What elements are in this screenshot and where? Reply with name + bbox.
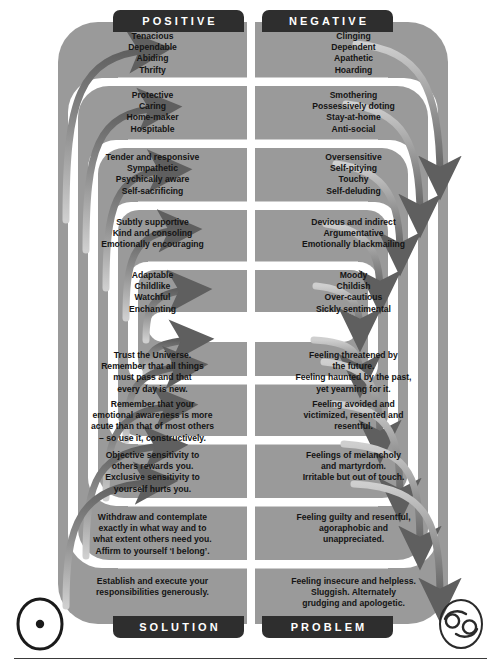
row-1: Tenacious Dependable Abiding Thrifty Cli… (58, 31, 448, 76)
row-2-negative: Smothering Possessively doting Stay-at-h… (253, 90, 448, 135)
row-3-positive: Tender and responsive Sympathetic Psychi… (58, 152, 253, 197)
row-10-negative: Feeling guilty and resentful, agoraphobi… (253, 512, 448, 557)
row-11-negative: Feeling insecure and helpless. Sluggish.… (253, 576, 448, 610)
row-7-positive: Trust the Universe. Remember that all th… (58, 350, 253, 395)
tab-negative: NEGATIVE (262, 10, 393, 32)
row-5-positive: Adaptable Childlike Watchful Enchanting (58, 270, 253, 315)
tab-problem: PROBLEM (262, 616, 393, 638)
sun-icon (14, 596, 66, 652)
row-3-negative: Oversensitive Self-pitying Touchy Self-d… (253, 152, 448, 197)
row-10-positive: Withdraw and contemplate exactly in what… (58, 512, 253, 557)
row-5: Adaptable Childlike Watchful Enchanting … (58, 270, 448, 315)
row-2: Protective Caring Home-maker Hospitable … (58, 90, 448, 135)
spiral-diagram: POSITIVE NEGATIVE Tenacious Dependable A… (0, 0, 501, 668)
row-7-negative: Feeling threatened by the future. Feelin… (253, 350, 448, 395)
row-3: Tender and responsive Sympathetic Psychi… (58, 152, 448, 197)
row-7: Trust the Universe. Remember that all th… (58, 350, 448, 395)
tab-positive: POSITIVE (113, 10, 244, 32)
row-8: Remember that your emotional awareness i… (58, 399, 448, 444)
row-4-positive: Subtly supportive Kind and consoling Emo… (58, 217, 253, 251)
row-9-negative: Feelings of melancholy and martyrdom. Ir… (253, 450, 448, 495)
tab-solution: SOLUTION (113, 616, 244, 638)
row-11-positive: Establish and execute your responsibilit… (58, 576, 253, 610)
row-11: Establish and execute your responsibilit… (58, 576, 448, 610)
row-8-positive: Remember that your emotional awareness i… (58, 399, 253, 444)
page-rule (14, 658, 487, 659)
row-5-negative: Moody Childish Over-cautious Sickly sent… (253, 270, 448, 315)
row-1-positive: Tenacious Dependable Abiding Thrifty (58, 31, 253, 76)
row-2-positive: Protective Caring Home-maker Hospitable (58, 90, 253, 135)
row-9: Objective sensitivity to others rewards … (58, 450, 448, 495)
row-1-negative: Clinging Dependent Apathetic Hoarding (253, 31, 448, 76)
row-9-positive: Objective sensitivity to others rewards … (58, 450, 253, 495)
row-4: Subtly supportive Kind and consoling Emo… (58, 217, 448, 251)
row-10: Withdraw and contemplate exactly in what… (58, 512, 448, 557)
cancer-zodiac-icon (435, 596, 487, 652)
row-8-negative: Feeling avoided and victimized, resented… (253, 399, 448, 444)
row-4-negative: Devious and indirect Argumentative Emoti… (253, 217, 448, 251)
